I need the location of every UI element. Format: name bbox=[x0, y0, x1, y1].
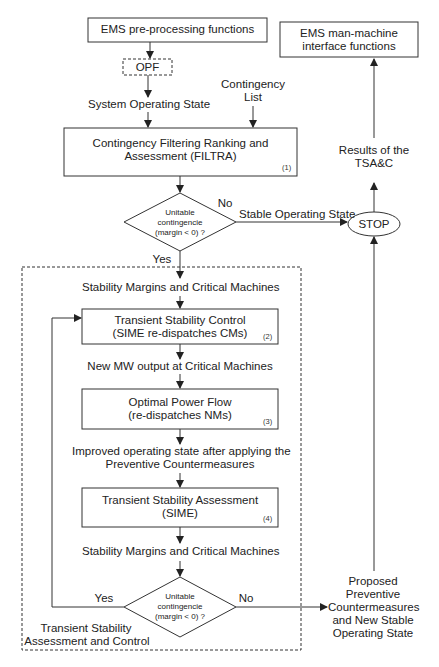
stable-operating-state-label: Stable Operating State bbox=[239, 208, 349, 221]
decision1-line2: contingencie bbox=[124, 218, 236, 228]
decision2-line3: (margin < 0) ? bbox=[124, 612, 236, 622]
stability-margins-label-2: Stability Margins and Critical Machines bbox=[82, 545, 278, 558]
new-mw-output-label: New MW output at Critical Machines bbox=[82, 360, 278, 373]
decision2-line1: Unitable bbox=[124, 592, 236, 602]
results-line1: Results of the bbox=[330, 144, 418, 157]
proposed-line2: Preventive bbox=[328, 588, 418, 601]
tsa-line2: (SIME) bbox=[82, 507, 278, 520]
ems-mmi-line1: EMS man-machine bbox=[280, 27, 418, 40]
improved-state-line2: Preventive Countermeasures bbox=[72, 458, 288, 471]
no-label-1: No bbox=[215, 197, 235, 210]
proposed-line1: Proposed bbox=[328, 575, 418, 588]
stop-label: STOP bbox=[348, 218, 400, 231]
tsc-number: (2) bbox=[263, 332, 272, 341]
tsac-group-line1: Transient Stability bbox=[26, 622, 146, 635]
opf-number: (3) bbox=[263, 417, 272, 426]
contingency-list-line1: Contingency bbox=[213, 78, 293, 91]
stability-margins-label-1: Stability Margins and Critical Machines bbox=[82, 281, 278, 294]
tsa-number: (4) bbox=[263, 514, 272, 523]
yes-label-1: Yes bbox=[150, 253, 174, 266]
ems-mmi-line2: interface functions bbox=[280, 40, 418, 53]
opf-line2: (re-dispatches NMs) bbox=[82, 409, 278, 422]
proposed-line5: Operating State bbox=[328, 627, 418, 640]
tsc-line1: Transient Stability Control bbox=[82, 314, 278, 327]
decision1-line3: (margin < 0) ? bbox=[124, 228, 236, 238]
proposed-line4: and New Stable bbox=[328, 614, 418, 627]
opf-line1: Optimal Power Flow bbox=[82, 396, 278, 409]
yes-label-2: Yes bbox=[92, 592, 116, 605]
tsac-group-line2: Assessment and Control bbox=[22, 635, 152, 648]
tsc-line2: (SIME re-dispatches CMs) bbox=[82, 327, 278, 340]
proposed-line3: Countermeasures bbox=[328, 601, 418, 614]
filtra-line1: Contingency Filtering Ranking and bbox=[64, 137, 297, 150]
ems-preprocessing-label: EMS pre-processing functions bbox=[88, 23, 267, 36]
opf-dashed-label: OPF bbox=[123, 61, 172, 74]
results-line2: TSA&C bbox=[330, 157, 418, 170]
no-label-2: No bbox=[236, 592, 256, 605]
system-operating-state-label: System Operating State bbox=[88, 98, 208, 111]
tsa-line1: Transient Stability Assessment bbox=[82, 494, 278, 507]
filtra-number: (1) bbox=[282, 163, 291, 172]
contingency-list-line2: List bbox=[213, 91, 293, 104]
filtra-line2: Assessment (FILTRA) bbox=[64, 150, 297, 163]
flowchart: EMS pre-processing functions OPF EMS man… bbox=[0, 0, 439, 667]
decision2-line2: contingencie bbox=[124, 602, 236, 612]
improved-state-line1: Improved operating state after applying … bbox=[72, 445, 288, 458]
